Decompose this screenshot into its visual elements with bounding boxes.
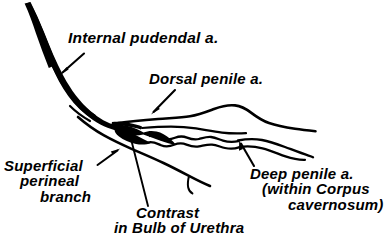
label-contrast-in-bulb-of-urethra: Contrast in Bulb of Urethra [114,205,244,236]
label-dorsal-penile-line1: Dorsal penile a. [149,71,263,86]
label-superficial-perineal-line1: Superficial [4,158,91,173]
label-superficial-perineal-branch: Superficial perineal branch [4,158,91,204]
label-deep-penile-line2: (within Corpus [250,181,384,196]
figure-canvas: Internal pudendal a. Dorsal penile a. Su… [0,0,390,252]
leader-contrast [131,139,148,206]
internal-pudendal-artery-upper-shaft [25,2,57,68]
label-contrast-line1: Contrast [114,205,244,220]
label-deep-penile-artery: Deep penile a. (within Corpus cavernosum… [250,166,384,212]
corpus-cavernosum-upper-outline [238,139,313,157]
internal-pudendal-artery-mid-shaft [51,64,96,120]
arrow-deep-penile [239,141,254,166]
arrow-internal-pudendal [60,54,84,76]
arrow-superficial-perineal [98,148,121,165]
label-deep-penile-line1: Deep penile a. [250,166,384,181]
arrow-dorsal-penile [151,90,175,115]
label-dorsal-penile-artery: Dorsal penile a. [149,71,263,86]
label-deep-penile-line3: cavernosum) [250,197,384,212]
label-internal-pudendal-artery: Internal pudendal a. [68,30,218,46]
label-internal-pudendal-line1: Internal pudendal a. [68,30,218,46]
deep-penile-artery-lower-wave [148,142,239,149]
label-superficial-perineal-line2: perineal [4,173,91,188]
label-superficial-perineal-line3: branch [4,189,91,204]
label-contrast-line2: in Bulb of Urethra [114,220,244,235]
